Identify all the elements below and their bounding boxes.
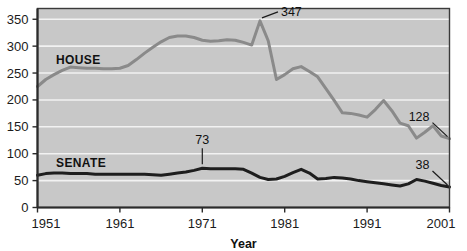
x-tick-label-1991: 1991: [353, 216, 382, 231]
y-tick-label-50: 50: [14, 173, 28, 188]
annotation-label-347: 347: [281, 5, 302, 19]
x-tick-label-1971: 1971: [188, 216, 217, 231]
annotation-label-73: 73: [195, 133, 209, 147]
y-tick-label-0: 0: [21, 200, 28, 215]
series-label-house: HOUSE: [56, 53, 101, 67]
line-chart: 0501001502002503003501951196119711981199…: [0, 0, 467, 251]
x-axis-title: Year: [230, 237, 257, 251]
clipped-title: [0, 0, 467, 3]
y-tick-label-350: 350: [7, 12, 29, 27]
annotation-label-38: 38: [416, 158, 430, 172]
y-tick-label-200: 200: [7, 92, 29, 107]
y-tick-label-100: 100: [7, 146, 29, 161]
y-tick-label-250: 250: [7, 66, 29, 81]
chart-figure: 0501001502002503003501951196119711981199…: [0, 0, 467, 251]
annotation-label-128: 128: [409, 110, 430, 124]
y-tick-label-300: 300: [7, 39, 29, 54]
x-tick-label-1961: 1961: [105, 216, 134, 231]
series-label-senate: SENATE: [56, 156, 106, 170]
x-tick-label-2001: 2001: [427, 216, 456, 231]
plot-background: [38, 9, 450, 208]
y-tick-label-150: 150: [7, 119, 29, 134]
x-tick-label-1981: 1981: [270, 216, 299, 231]
x-tick-label-1951: 1951: [32, 216, 61, 231]
